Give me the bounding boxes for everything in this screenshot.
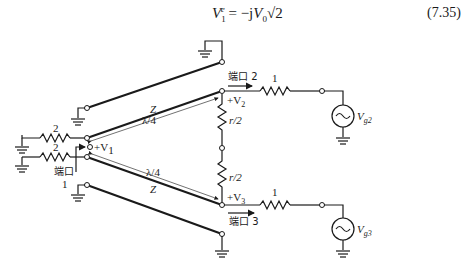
lower-inner-line <box>87 157 222 205</box>
r-upper-label: r/2 <box>229 114 242 126</box>
ground-icon <box>198 51 212 57</box>
port1-network: 2 2 +V1 端口 1 <box>15 122 114 190</box>
node <box>88 145 93 150</box>
resistor-port3 <box>260 201 290 209</box>
node <box>220 232 225 237</box>
vg3-label: Vg3 <box>357 223 372 238</box>
resistor-r-upper <box>218 94 226 146</box>
res-left-bottom-label: 2 <box>53 141 59 153</box>
ground-icon <box>15 138 29 153</box>
ac-wave-icon <box>336 227 350 232</box>
ground-icon <box>336 127 350 144</box>
node <box>320 89 325 94</box>
node <box>85 106 90 111</box>
v3-label: +V3 <box>227 191 245 206</box>
ground-icon <box>215 236 229 257</box>
port1-number: 1 <box>62 178 68 190</box>
port2-network: +V2 端口 2 1 Vg2 <box>224 70 372 144</box>
res-port3-label: 1 <box>272 186 278 198</box>
top-ground-stub <box>198 41 222 62</box>
node <box>85 155 90 160</box>
port1-label: 端口 <box>54 165 74 177</box>
lambda-upper-label: λ/4 <box>142 114 156 126</box>
ground-icon <box>71 185 85 201</box>
node <box>220 60 225 65</box>
port2-label: 端口 2 <box>228 70 258 82</box>
r-lower-label: r/2 <box>229 171 242 183</box>
ground-icon <box>71 108 85 125</box>
node <box>220 146 225 151</box>
resistor-r-lower <box>218 151 226 203</box>
resistor-port2 <box>260 87 290 95</box>
node-v2 <box>220 89 225 94</box>
z-lower-label: Z <box>150 183 157 195</box>
res-port2-label: 1 <box>272 72 278 84</box>
ground-icon <box>336 240 350 257</box>
resistor-left-bottom <box>40 153 70 161</box>
v1-label: +V1 <box>94 141 114 156</box>
port3-label: 端口 3 <box>229 215 259 227</box>
lambda-lower-label: λ/4 <box>146 166 160 178</box>
node <box>320 203 325 208</box>
node-v3 <box>220 203 225 208</box>
upper-outer-line <box>87 62 222 108</box>
node <box>85 183 90 188</box>
v2-label: +V2 <box>227 94 245 109</box>
ground-icon <box>15 157 29 172</box>
vg2-label: Vg2 <box>357 110 372 125</box>
node <box>85 136 90 141</box>
res-left-top-label: 2 <box>53 122 59 134</box>
wilkinson-divider-circuit: Z λ/4 λ/4 Z 2 2 <box>0 0 475 272</box>
ac-wave-icon <box>336 114 350 119</box>
port3-network: +V3 端口 3 1 Vg3 <box>224 186 372 257</box>
